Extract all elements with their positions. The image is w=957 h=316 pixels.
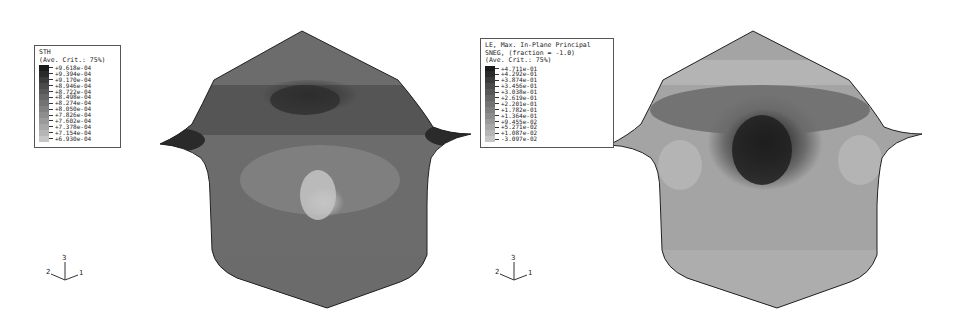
legend-row: +6.930e-04 xyxy=(39,136,116,142)
legend-averaging: (Ave. Crit.: 75%) xyxy=(39,57,116,65)
legend-swatch xyxy=(485,136,495,142)
right-triad-labels: 3 2 1 xyxy=(489,252,549,292)
axis-2-label: 2 xyxy=(495,268,499,276)
legend-averaging: (Ave. Crit.: 75%) xyxy=(485,57,609,65)
left-contour-plot xyxy=(145,25,485,315)
axis-2-label: 2 xyxy=(46,268,50,276)
legend-row: -3.097e-02 xyxy=(485,136,609,142)
right-contour-plot xyxy=(600,25,930,315)
legend-value: -3.097e-02 xyxy=(501,136,537,142)
axis-1-label: 1 xyxy=(79,269,83,277)
axis-1-label: 1 xyxy=(528,269,532,277)
axis-3-label: 3 xyxy=(511,254,515,262)
contour-plots xyxy=(0,0,957,316)
legend-sth: STH (Ave. Crit.: 75%) +9.618e-04 +9.394e… xyxy=(34,45,121,148)
left-triad-labels: 3 2 1 xyxy=(40,252,100,292)
legend-swatch xyxy=(39,136,49,142)
legend-max-in-plane-principal: LE, Max. In-Plane Principal SNEG, (fract… xyxy=(480,38,614,148)
legend-rows: +9.618e-04 +9.394e-04 +9.170e-04 +8.946e… xyxy=(39,65,116,142)
legend-value: +6.930e-04 xyxy=(55,136,91,142)
legend-rows: +4.711e-01 +4.292e-01 +3.874e-01 +3.456e… xyxy=(485,66,609,143)
axis-3-label: 3 xyxy=(62,254,66,262)
